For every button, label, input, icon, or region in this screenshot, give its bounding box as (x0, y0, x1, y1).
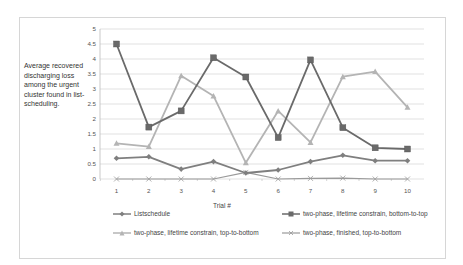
diamond-marker-icon (113, 211, 131, 217)
y-tick-label: 3 (93, 85, 97, 92)
legend-item-listschedule: Listschedule (113, 210, 170, 217)
x-axis-title: Trial # (213, 202, 231, 209)
y-tick-label: 4 (93, 55, 97, 62)
triangle-marker-icon (113, 230, 131, 236)
y-tick-label: 1 (93, 145, 97, 152)
y-tick-label: 4.5 (87, 40, 96, 47)
x-tick-label: 9 (373, 187, 377, 194)
x-tick-label: 7 (309, 187, 313, 194)
legend-item-lifetime-top-to-bottom: two-phase, lifetime constrain, top-to-bo… (113, 229, 259, 236)
legend-label: two-phase, finished, top-to-bottom (303, 229, 401, 236)
y-tick-label: 3.5 (87, 70, 96, 77)
x-tick-label: 5 (244, 187, 248, 194)
legend-label: Listschedule (134, 210, 170, 217)
x-tick-label: 10 (404, 187, 411, 194)
x-tick-label: 8 (341, 187, 345, 194)
x-tick-label: 1 (115, 187, 119, 194)
legend-item-lifetime-bottom-to-top: two-phase, lifetime constrain, bottom-to… (282, 210, 428, 217)
y-tick-label: 5 (93, 25, 97, 32)
y-tick-label: 0.5 (87, 160, 96, 167)
x-tick-label: 2 (147, 187, 151, 194)
x-marker-icon (282, 230, 300, 236)
square-marker-icon (282, 211, 300, 217)
legend-label: two-phase, lifetime constrain, top-to-bo… (134, 229, 259, 236)
legend-label: two-phase, lifetime constrain, bottom-to… (303, 210, 428, 217)
y-tick-label: 1.5 (87, 130, 96, 137)
y-tick-label: 0 (93, 175, 97, 182)
y-tick-label: 2 (93, 115, 97, 122)
legend-item-finished-top-to-bottom: two-phase, finished, top-to-bottom (282, 229, 401, 236)
plot-area: 00.511.522.533.544.5512345678910 (0, 0, 463, 265)
x-tick-label: 4 (212, 187, 216, 194)
x-tick-label: 3 (179, 187, 183, 194)
y-tick-label: 2.5 (87, 100, 96, 107)
x-tick-label: 6 (276, 187, 280, 194)
series-triangle (114, 69, 411, 166)
